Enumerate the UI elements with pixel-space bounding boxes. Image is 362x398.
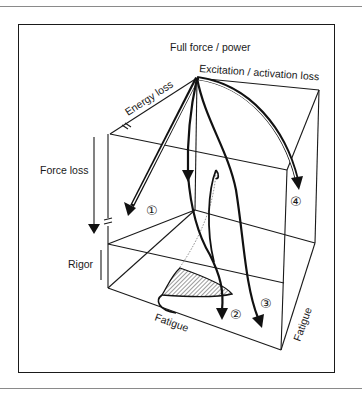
hatched-region-tail xyxy=(159,295,176,313)
full-force-power-label: Full force / power xyxy=(170,41,251,53)
energy-axis-break-marks xyxy=(122,123,131,129)
back-inner-vertical xyxy=(195,78,197,210)
pathway-2-arrowhead-icon xyxy=(216,308,228,320)
force-loss-arrowhead-icon xyxy=(88,224,100,234)
pathway-4-marker: ④ xyxy=(290,194,302,209)
fatigue-right-label: Fatigue xyxy=(291,306,314,343)
top-front-edge xyxy=(110,134,287,170)
pathway-3-marker: ③ xyxy=(260,296,272,311)
cube-edges xyxy=(104,78,319,350)
front-right-vertical xyxy=(281,170,287,350)
rigor-label: Rigor xyxy=(68,258,94,270)
pathway-4-arrowhead-icon xyxy=(291,176,303,190)
mid-back-edge xyxy=(195,210,315,243)
fatigue-bottom-label: Fatigue xyxy=(153,311,190,334)
bottom-rule xyxy=(0,388,362,389)
force-loss-label: Force loss xyxy=(40,164,88,176)
pathway-2-marker: ② xyxy=(230,307,242,322)
pathway-1-marker: ① xyxy=(146,203,158,218)
pathway-3-arrowhead-icon xyxy=(252,314,264,328)
cube-diagram: Full force / power Excitation / activati… xyxy=(0,0,362,398)
axis-break-marks xyxy=(104,218,112,224)
back-right-vertical xyxy=(315,90,319,243)
excitation-activation-loss-label: Excitation / activation loss xyxy=(199,62,320,82)
